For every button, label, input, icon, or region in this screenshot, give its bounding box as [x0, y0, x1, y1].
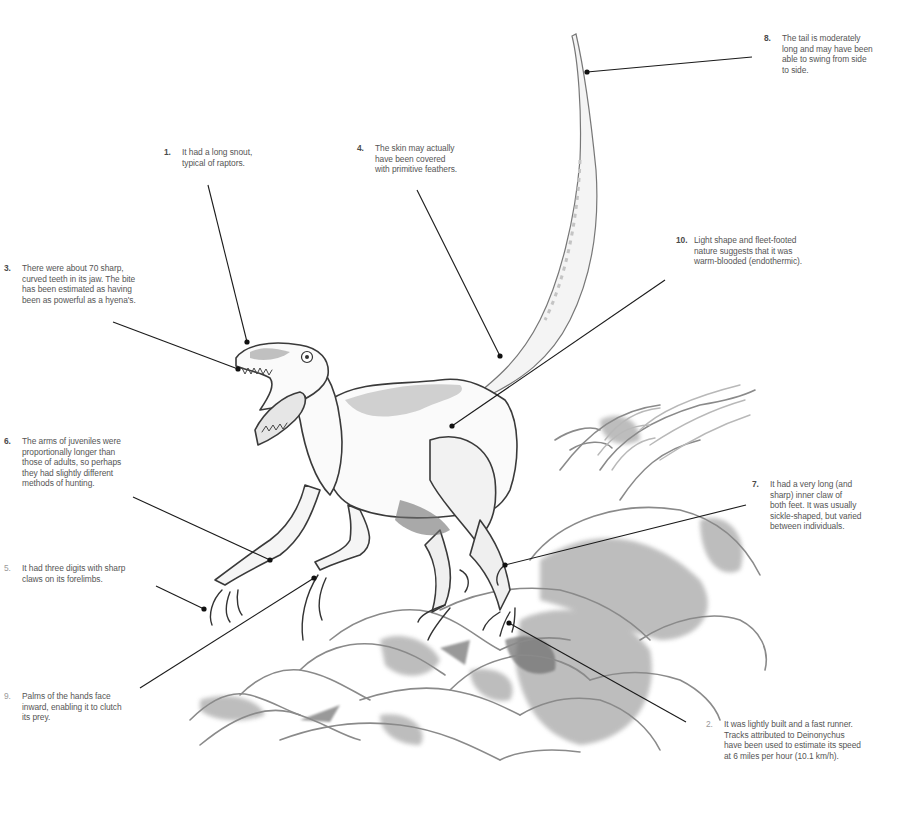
annotation-text: It had a very long (and sharp) inner cla…: [770, 479, 892, 532]
leader-line-3: [113, 322, 238, 369]
annotation-4-feathers: 4. The skin may actually have been cover…: [357, 143, 487, 175]
leader-line-4: [417, 190, 500, 356]
annotation-text: It was lightly built and a fast runner. …: [724, 719, 896, 761]
claws: [210, 565, 515, 640]
annotation-text: It had a long snout, typical of raptors.: [182, 147, 284, 168]
annotation-number: 2.: [706, 719, 713, 730]
dinosaur-tail: [470, 34, 597, 400]
annotation-text: Palms of the hands face inward, enabling…: [22, 691, 144, 723]
annotation-10-warm-blooded: 10. Light shape and fleet-footed nature …: [676, 235, 826, 267]
leader-line-5: [156, 586, 204, 609]
annotation-text: Light shape and fleet-footed nature sugg…: [694, 235, 826, 267]
leader-line-8: [587, 57, 752, 72]
annotation-3-teeth: 3. There were about 70 sharp, curved tee…: [4, 263, 164, 305]
annotation-text: There were about 70 sharp, curved teeth …: [22, 263, 164, 305]
annotation-text: The tail is moderately long and may have…: [782, 33, 894, 75]
leader-line-6: [133, 497, 270, 560]
annotation-number: 8.: [764, 33, 771, 44]
annotation-number: 1.: [164, 147, 171, 158]
annotation-number: 6.: [4, 436, 11, 447]
annotation-7-sickle-claw: 7. It had a very long (and sharp) inner …: [752, 479, 892, 532]
leader-line-9: [140, 578, 314, 688]
annotation-text: The skin may actually have been covered …: [375, 143, 487, 175]
annotation-number: 7.: [752, 479, 759, 490]
annotation-number: 9.: [4, 691, 11, 702]
annotation-2-fast-runner: 2. It was lightly built and a fast runne…: [706, 719, 896, 761]
annotation-text: It had three digits with sharp claws on …: [22, 563, 154, 584]
annotation-number: 4.: [357, 143, 364, 154]
annotation-number: 3.: [4, 263, 11, 274]
annotation-text: The arms of juveniles were proportionall…: [22, 436, 144, 489]
annotation-8-tail: 8. The tail is moderately long and may h…: [764, 33, 894, 75]
annotation-5-digits: 5. It had three digits with sharp claws …: [4, 563, 154, 584]
annotation-number: 10.: [676, 235, 688, 246]
annotation-1-snout: 1. It had a long snout, typical of rapto…: [164, 147, 284, 168]
annotation-number: 5.: [4, 563, 11, 574]
annotation-9-palms: 9. Palms of the hands face inward, enabl…: [4, 691, 144, 723]
dinosaur-body: [215, 343, 517, 612]
annotation-6-arms: 6. The arms of juveniles were proportion…: [4, 436, 144, 489]
leader-line-1: [208, 185, 247, 342]
